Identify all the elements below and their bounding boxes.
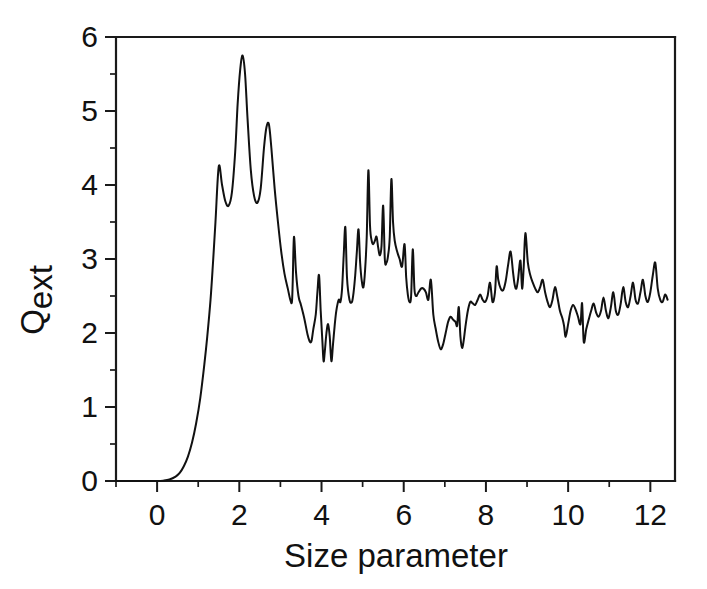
y-tick-label: 6: [81, 20, 98, 53]
x-tick-label: 0: [149, 498, 166, 531]
x-tick-label: 10: [551, 498, 584, 531]
x-axis-title: Size parameter: [284, 537, 508, 574]
figure-container: 0246810120123456 Size parameter Qext: [0, 0, 707, 589]
y-axis-title-base: Q: [14, 309, 51, 335]
y-tick-label: 0: [81, 464, 98, 497]
x-tick-label: 8: [478, 498, 495, 531]
y-tick-label: 5: [81, 94, 98, 127]
extinction-efficiency-chart: 0246810120123456 Size parameter Qext: [0, 0, 707, 589]
x-tick-label: 6: [395, 498, 412, 531]
y-axis-title-subscript: ext: [22, 265, 59, 309]
y-tick-label: 4: [81, 168, 98, 201]
y-tick-label: 3: [81, 242, 98, 275]
x-tick-label: 12: [634, 498, 667, 531]
x-tick-label: 2: [231, 498, 248, 531]
x-tick-label: 4: [313, 498, 330, 531]
y-tick-label: 2: [81, 316, 98, 349]
y-tick-label: 1: [81, 390, 98, 423]
